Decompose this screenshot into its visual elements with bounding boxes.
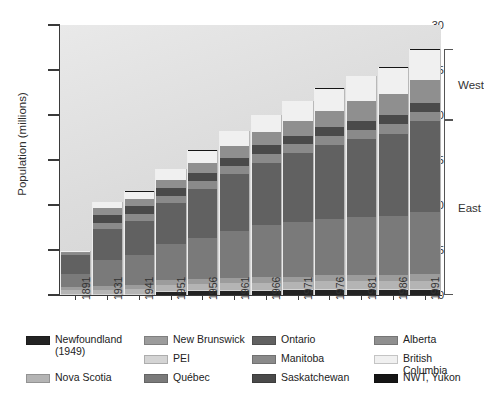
x-axis-tick-label-1961: 1961 xyxy=(239,277,251,300)
legend-item[interactable]: Newfoundland(1949) xyxy=(26,333,144,349)
y-axis-tick xyxy=(48,159,59,160)
y-axis-tick xyxy=(48,249,59,250)
x-axis-tick-label-1986: 1986 xyxy=(397,277,409,300)
bar-1961 xyxy=(219,131,250,295)
chart-legend: Newfoundland(1949)New BrunswickOntarioAl… xyxy=(26,333,466,395)
bar-segment xyxy=(315,145,344,219)
bar-segment xyxy=(93,229,122,260)
bar-segment xyxy=(125,221,154,255)
bar-segment xyxy=(379,94,408,115)
bar-segment xyxy=(410,80,439,103)
x-axis-tick-label-1981: 1981 xyxy=(366,277,378,300)
legend-label: New Brunswick xyxy=(173,333,245,345)
legend-label: Saskatchewan xyxy=(281,371,349,383)
x-axis-tick xyxy=(329,296,330,300)
x-axis-tick xyxy=(425,296,426,300)
bar-segment xyxy=(379,68,408,94)
legend-item[interactable]: Ontario xyxy=(252,333,374,349)
bar-1971 xyxy=(282,101,313,295)
bar-segment xyxy=(347,217,376,275)
bar-segment xyxy=(315,219,344,275)
bar-segment xyxy=(188,181,217,189)
bar-1966 xyxy=(251,115,282,295)
legend-label: Ontario xyxy=(281,333,315,345)
bar-segment xyxy=(252,225,281,277)
bar-segment xyxy=(220,166,249,174)
legend-item[interactable]: Alberta xyxy=(374,333,466,349)
legend-item[interactable]: Québec xyxy=(144,371,252,387)
bar-segment xyxy=(410,103,439,112)
bar-segment xyxy=(379,216,408,275)
legend-swatch xyxy=(374,355,398,364)
legend-item[interactable]: Nova Scotia xyxy=(26,371,144,387)
bracket-east xyxy=(444,120,453,295)
bar-segment xyxy=(252,115,281,132)
legend-swatch xyxy=(374,374,398,383)
bar-segment xyxy=(252,132,281,145)
bar-segment xyxy=(379,124,408,134)
legend-swatch xyxy=(26,374,50,383)
bar-segment xyxy=(283,101,312,121)
bar-segment xyxy=(156,244,185,281)
bar-segment xyxy=(252,145,281,154)
legend-label: Nova Scotia xyxy=(55,371,112,383)
legend-item[interactable]: Saskatchewan xyxy=(252,371,374,387)
x-axis-tick-label-1971: 1971 xyxy=(302,277,314,300)
x-axis-tick xyxy=(266,296,267,300)
legend-item[interactable]: PEI xyxy=(144,352,252,368)
x-axis-tick xyxy=(171,296,172,300)
bar-1981 xyxy=(346,76,377,295)
legend-item[interactable]: NWT, Yukon xyxy=(374,371,466,387)
region-brackets: WestEast xyxy=(444,25,482,297)
bar-segment xyxy=(347,101,376,121)
legend-item[interactable]: Manitoba xyxy=(252,352,374,368)
x-axis-tick-label-1891: 1891 xyxy=(80,277,92,300)
bar-segment xyxy=(125,192,154,199)
legend-swatch xyxy=(252,355,276,364)
y-axis-tick xyxy=(48,204,59,205)
bar-segment xyxy=(156,203,185,244)
legend-label: Alberta xyxy=(403,333,436,345)
bar-segment xyxy=(93,215,122,223)
legend-swatch xyxy=(252,336,276,345)
bar-segment xyxy=(379,115,408,124)
y-axis-tick xyxy=(48,114,59,115)
bar-segment xyxy=(410,212,439,274)
bar-segment xyxy=(315,89,344,111)
bar-segment xyxy=(379,134,408,216)
bar-segment xyxy=(220,174,249,230)
x-axis-tick-label-1931: 1931 xyxy=(112,277,124,300)
legend-swatch xyxy=(374,336,398,345)
x-axis-tick-label-1991: 1991 xyxy=(429,277,441,300)
bar-segment xyxy=(283,136,312,144)
bar-1991 xyxy=(409,49,440,295)
x-axis-tick-label-1956: 1956 xyxy=(207,277,219,300)
bar-segment xyxy=(188,173,217,181)
bar-segment xyxy=(410,112,439,122)
bar-segment xyxy=(220,131,249,146)
bar-segment xyxy=(315,111,344,128)
legend-label: Manitoba xyxy=(281,352,324,364)
bar-segment xyxy=(283,222,312,276)
bar-1986 xyxy=(378,67,409,295)
bar-segment xyxy=(188,189,217,238)
bar-segment xyxy=(125,199,154,206)
x-axis-tick xyxy=(107,296,108,300)
bar-segment xyxy=(156,169,185,180)
x-axis-tick xyxy=(139,296,140,300)
y-axis-tick xyxy=(48,24,59,25)
legend-item[interactable]: British Columbia xyxy=(374,352,466,368)
bar-segment xyxy=(347,139,376,217)
bars-container xyxy=(60,25,441,295)
bar-segment xyxy=(315,127,344,135)
bar-segment xyxy=(315,136,344,145)
bar-1956 xyxy=(187,150,218,295)
bar-segment xyxy=(347,130,376,139)
bar-segment xyxy=(61,255,90,274)
legend-item[interactable]: New Brunswick xyxy=(144,333,252,349)
bar-segment xyxy=(188,151,217,164)
bar-segment xyxy=(283,144,312,153)
x-axis-tick-label-1951: 1951 xyxy=(175,277,187,300)
bar-segment xyxy=(220,231,249,278)
